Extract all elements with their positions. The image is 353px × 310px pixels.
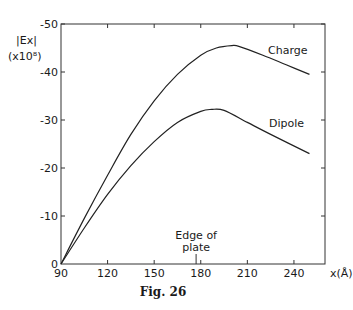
annotation-plate: plate [182, 241, 210, 254]
labels: ChargeDipole|Ex|(x10⁸)Edge ofplatex(Å)Fi… [8, 34, 353, 299]
x-tick-label: 90 [54, 267, 68, 280]
plot-frame [61, 24, 325, 264]
figure-caption: Fig. 26 [140, 285, 187, 299]
y-tick-label: -50 [40, 18, 58, 31]
x-tick-label: 240 [283, 267, 304, 280]
y-tick-label: -40 [40, 66, 58, 79]
y-tick-label: -10 [40, 210, 58, 223]
x-axis-label: x(Å) [330, 267, 353, 280]
x-tick-label: 210 [237, 267, 258, 280]
y-axis-unit: (x10⁸) [8, 50, 42, 63]
series-label-charge: Charge [268, 44, 308, 57]
series-label-dipole: Dipole [269, 117, 304, 130]
chart: 0-10-20-30-40-50 90120150180210240 Charg… [0, 0, 353, 310]
x-tick-label: 120 [97, 267, 118, 280]
y-tick-label: -20 [40, 162, 58, 175]
y-tick-label: -30 [40, 114, 58, 127]
y-axis-label: |Ex| [16, 34, 37, 47]
x-tick-label: 180 [190, 267, 211, 280]
x-tick-label: 150 [144, 267, 165, 280]
